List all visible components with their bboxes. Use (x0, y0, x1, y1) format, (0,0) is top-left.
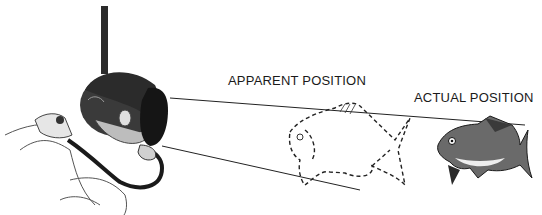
apparent-fish-dorsal-hatch (340, 104, 355, 114)
actual-fish (438, 116, 532, 185)
apparent-fish-eye (297, 134, 303, 140)
snorkel-tube (101, 6, 108, 74)
refraction-diagram: APPARENT POSITION ACTUAL POSITION (0, 0, 542, 215)
apparent-position-label: APPARENT POSITION (228, 73, 366, 88)
diver-hand (35, 114, 72, 138)
actual-position-label: ACTUAL POSITION (414, 90, 534, 105)
apparent-fish (289, 103, 410, 185)
dive-mask (140, 88, 168, 146)
sight-line-lower (162, 146, 360, 190)
illustration (0, 0, 542, 215)
diver-figure (5, 124, 127, 215)
mouthpiece (138, 145, 156, 160)
